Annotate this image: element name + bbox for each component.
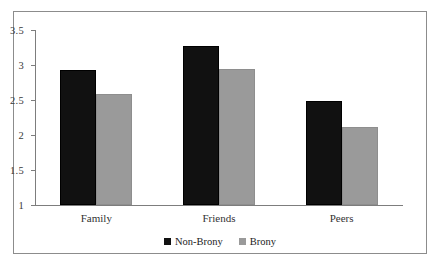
x-axis-category-label: Peers (280, 212, 403, 224)
bar-brony-peers (342, 127, 378, 205)
bar-group: Friends (158, 30, 281, 205)
legend-label: Brony (250, 236, 276, 247)
y-axis-tick-label: 3 (18, 60, 24, 71)
bar-non-brony-family (60, 70, 96, 205)
square-marker-black-icon (164, 238, 171, 245)
y-axis-tick: 1 (31, 205, 36, 206)
x-axis-line (35, 205, 403, 206)
x-axis-category-label: Family (35, 212, 158, 224)
square-marker-gray-icon (239, 238, 246, 245)
chart-figure: 3.532.521.51 FamilyFriendsPeers Non-Bron… (13, 11, 427, 254)
y-axis-tick-label: 2 (18, 130, 24, 141)
x-axis-category-label: Friends (158, 212, 281, 224)
legend-item: Non-Brony (164, 236, 223, 247)
chart-legend: Non-BronyBrony (14, 236, 426, 247)
bar-non-brony-friends (183, 46, 219, 205)
bar-brony-family (96, 94, 132, 205)
bar-non-brony-peers (306, 101, 342, 205)
y-axis-tick-label: 1 (18, 200, 24, 211)
bar-group: Family (35, 30, 158, 205)
bar-brony-friends (219, 69, 255, 205)
y-axis-tick-label: 1.5 (10, 165, 24, 176)
legend-item: Brony (239, 236, 276, 247)
y-axis-tick-label: 2.5 (10, 95, 24, 106)
legend-label: Non-Brony (175, 236, 223, 247)
bar-group: Peers (280, 30, 403, 205)
y-axis-tick-label: 3.5 (10, 25, 24, 36)
plot-area: 3.532.521.51 FamilyFriendsPeers (35, 31, 403, 206)
